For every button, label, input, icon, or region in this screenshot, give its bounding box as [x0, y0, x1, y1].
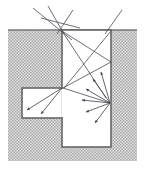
side-cavity-void [22, 88, 62, 118]
incident-ray-3 [41, 18, 80, 28]
shaft-void [62, 30, 111, 147]
shaft-cavity-joint [61, 89, 63, 117]
cross-section-diagram [0, 0, 145, 171]
figure-root [0, 0, 145, 171]
